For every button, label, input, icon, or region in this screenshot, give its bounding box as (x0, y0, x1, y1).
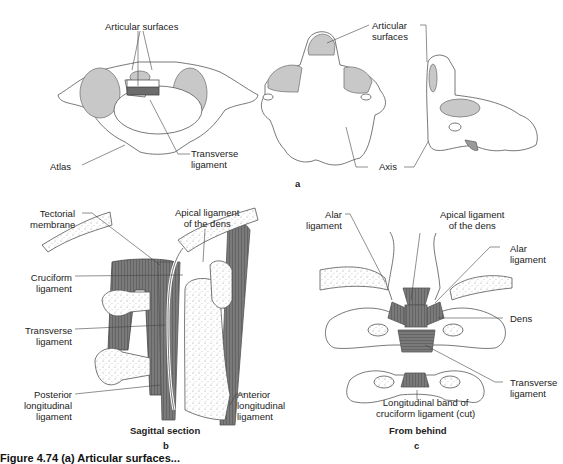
label-line: Articular (372, 20, 408, 31)
label-articular-surfaces-atlas: Articular surfaces (105, 21, 178, 32)
axis-front-drawing (261, 32, 385, 165)
label-line: Tectorial (30, 208, 75, 219)
label-apical-ligament-c: Apical ligament of the dens (440, 209, 504, 231)
label-line: Posterior (20, 389, 72, 400)
label-line: membrane (30, 219, 75, 230)
label-line: ligament (300, 220, 342, 231)
label-line: longitudinal (20, 400, 72, 411)
panel-title-from-behind: From behind (389, 425, 447, 436)
atlas-anterior-arch (210, 261, 232, 308)
longitudinal-band-cut (401, 373, 429, 387)
occipital-left (320, 267, 388, 290)
label-line: ligament (20, 411, 72, 422)
label-cruciform-ligament: Cruciform ligament (30, 272, 72, 294)
label-transverse-ligament-b: Transverse ligament (25, 325, 72, 347)
panel-letter-a: a (295, 178, 300, 189)
axis-articular-left (268, 65, 302, 92)
apical-ligament-fan (403, 288, 430, 305)
label-line: cruciform ligament (cut) (376, 408, 475, 419)
label-line: ligament (237, 411, 285, 422)
label-line: Anterior (237, 389, 285, 400)
transverse-ligament (398, 330, 435, 352)
label-line: ligament (510, 254, 546, 265)
figure-caption-partial: Figure 4.74 (a) Articular surfaces... (0, 452, 180, 464)
label-anterior-longitudinal: Anterior longitudinal ligament (237, 389, 285, 422)
label-longitudinal-band: Longitudinal band of cruciform ligament … (376, 397, 475, 419)
label-articular-surfaces-axis: Articular surfaces (372, 20, 408, 42)
label-tectorial-membrane: Tectorial membrane (30, 208, 75, 230)
label-transverse-ligament-c: Transverse ligament (510, 377, 557, 399)
panel-title-sagittal: Sagittal section (130, 425, 200, 436)
panel-letter-c: c (414, 440, 419, 451)
panel-letter-b: b (163, 440, 169, 451)
label-dens: Dens (510, 313, 532, 324)
label-line: Transverse (510, 377, 557, 388)
label-posterior-longitudinal: Posterior longitudinal ligament (20, 389, 72, 422)
label-line: Alar (300, 209, 342, 220)
label-line: of the dens (175, 218, 239, 229)
axis-articular-right (344, 67, 372, 93)
label-line: Transverse (25, 325, 72, 336)
axis-lateral-articular (440, 99, 480, 117)
label-atlas: Atlas (50, 161, 71, 172)
posterior-view-drawing (320, 232, 512, 403)
label-line: Alar (510, 243, 546, 254)
label-apical-ligament-b: Apical ligament of the dens (175, 207, 239, 229)
posterior-arch-1 (102, 290, 150, 316)
label-line: Cruciform (30, 272, 72, 283)
label-alar-ligament-left: Alar ligament (300, 209, 342, 231)
sagittal-drawing (42, 208, 258, 425)
label-line: Transverse (191, 148, 238, 159)
occipital-right (450, 276, 512, 300)
label-line: surfaces (372, 31, 408, 42)
label-line: of the dens (440, 220, 504, 231)
axis-lateral-drawing (427, 55, 538, 151)
label-line: Apical ligament (175, 207, 239, 218)
label-line: ligament (510, 388, 557, 399)
label-line: ligament (191, 159, 238, 170)
posterior-arch-2 (95, 348, 150, 385)
label-line: longitudinal (237, 400, 285, 411)
label-alar-ligament-right: Alar ligament (510, 243, 546, 265)
label-axis: Axis (379, 161, 397, 172)
atlas-drawing (58, 62, 258, 154)
atlas-transverse-ligament (127, 87, 159, 95)
label-line: Longitudinal band of (376, 397, 475, 408)
label-transverse-ligament-a: Transverse ligament (191, 148, 238, 170)
label-line: Apical ligament (440, 209, 504, 220)
label-line: ligament (25, 336, 72, 347)
label-line: ligament (30, 283, 72, 294)
